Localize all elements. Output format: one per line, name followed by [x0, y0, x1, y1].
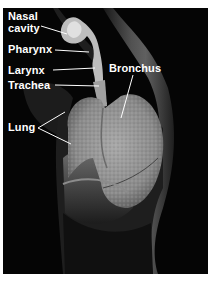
label-pharynx: Pharynx: [8, 44, 52, 55]
label-nasal-cavity: Nasal cavity: [8, 11, 40, 34]
label-bronchus: Bronchus: [109, 63, 161, 74]
label-trachea: Trachea: [8, 80, 50, 91]
label-larynx: Larynx: [8, 65, 45, 76]
label-nasal-line1: Nasal: [8, 11, 40, 22]
label-nasal-line2: cavity: [8, 23, 40, 34]
label-lung: Lung: [8, 122, 35, 133]
respiratory-diagram: Nasal cavity Pharynx Larynx Trachea Bron…: [3, 8, 208, 274]
